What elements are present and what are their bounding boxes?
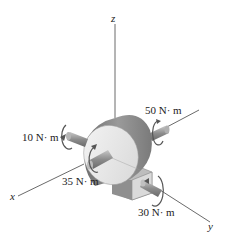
moment-label-10: 10 N· m (22, 131, 59, 143)
gearbox-diagram: z x y 10 N (0, 0, 225, 245)
shaft-rear-x (66, 132, 88, 147)
moment-label-50: 50 N· m (145, 104, 182, 116)
moment-label-35: 35 N· m (62, 175, 99, 187)
x-axis-label: x (9, 190, 15, 202)
y-axis-label: y (207, 220, 213, 232)
moment-label-30: 30 N· m (138, 206, 175, 218)
z-axis-label: z (110, 12, 116, 24)
